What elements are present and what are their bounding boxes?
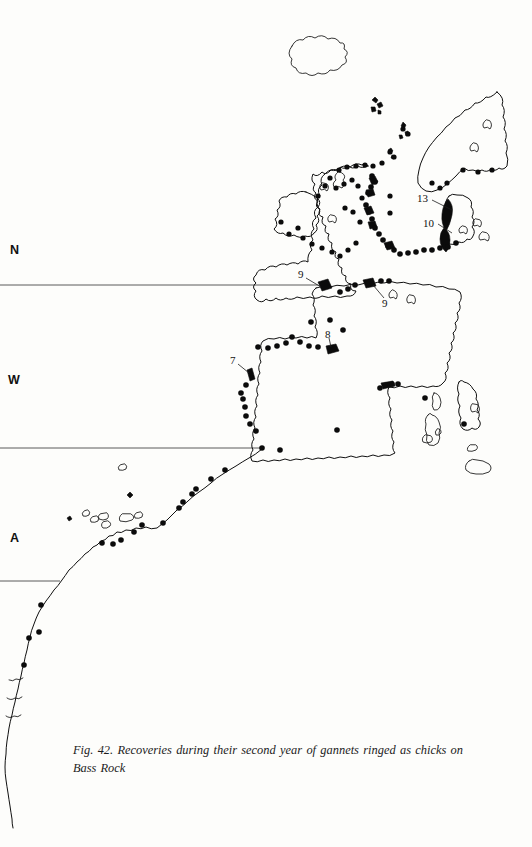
count-label-9-east: 9 xyxy=(373,285,388,309)
recovery-map: .coast { fill: none; stroke: #101010; st… xyxy=(0,0,532,847)
landmass-sicily xyxy=(465,459,491,474)
west-label: W xyxy=(8,374,20,387)
landmass-norway-sweden xyxy=(418,92,508,192)
landmass-sardinia xyxy=(425,414,440,446)
landmass-corsica xyxy=(432,393,441,410)
recovery-dots-group xyxy=(21,126,494,667)
atlantic-label: A xyxy=(10,532,19,545)
count-label-7-text: 7 xyxy=(230,354,236,366)
landmass-madeira xyxy=(118,464,127,470)
graticule-group xyxy=(0,285,318,581)
landmass-iceland xyxy=(289,36,347,76)
count-label-8: 8 xyxy=(325,328,331,347)
north-label: N xyxy=(10,244,19,257)
count-label-9-west: 9 xyxy=(298,268,321,287)
figure-caption: Fig. 42. Recoveries during their second … xyxy=(73,742,463,778)
landmass-continental-europe xyxy=(251,282,462,462)
landmass-faroe-islands xyxy=(371,97,383,114)
count-label-9-west-text: 9 xyxy=(298,268,304,280)
count-label-10-text: 10 xyxy=(423,217,435,229)
count-label-13-text: 13 xyxy=(417,192,429,204)
figure-page: .coast { fill: none; stroke: #101010; st… xyxy=(0,0,532,847)
count-label-8-text: 8 xyxy=(325,328,331,340)
count-label-7: 7 xyxy=(230,354,249,373)
landmass-aegean-fragment xyxy=(467,445,477,451)
landmass-canary-islands xyxy=(67,492,143,528)
count-label-9-east-text: 9 xyxy=(382,297,388,309)
landmass-italy xyxy=(458,381,481,431)
